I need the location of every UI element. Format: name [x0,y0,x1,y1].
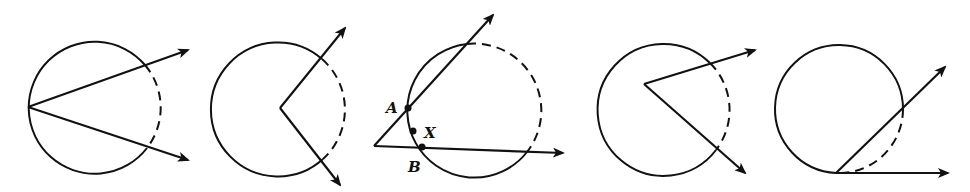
ray-lower [374,146,563,153]
intercepted-arc-dashed [145,65,161,148]
label-x: X [423,124,437,142]
point-x-dot [410,128,417,135]
intercepted-arc-dashed [467,44,541,152]
figure-2 [211,28,345,185]
intercepted-arc-dashed [322,59,345,159]
label-a: A [384,99,398,117]
figure-5 [775,45,948,173]
ray-lower [28,107,188,160]
figure-3: A X B [374,15,563,178]
circle-solid-arc [29,42,147,174]
figure-4 [598,44,755,176]
ray-lower [644,84,745,173]
ray-chord [836,67,945,173]
circle-solid-arc [598,44,716,176]
intercepted-arc-dashed [710,63,730,150]
point-a-dot [405,105,412,112]
circle-solid-arc [407,44,527,178]
ray-lower [280,108,340,185]
circle-solid-arc [211,42,323,176]
diagram-canvas: A X B [0,0,970,192]
ray-upper [280,28,345,108]
inscribed-angle-figures: A X B [0,0,970,192]
figure-1 [28,42,188,174]
point-b-dot [419,144,426,151]
label-b: B [407,158,421,176]
